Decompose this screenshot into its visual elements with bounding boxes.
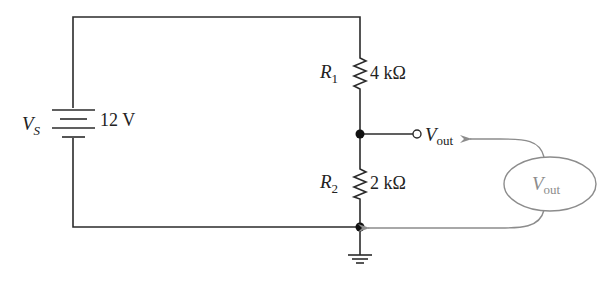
probe-lead-positive xyxy=(470,139,544,157)
r2-label: R2 xyxy=(319,171,338,196)
output-terminal-icon xyxy=(413,130,421,138)
resistor-r1-icon xyxy=(354,55,366,92)
source-label: VS xyxy=(22,113,41,138)
r2-value: 2 kΩ xyxy=(370,173,406,193)
ground-icon xyxy=(348,255,372,263)
r1-value: 4 kΩ xyxy=(370,63,406,83)
resistor-r2-icon xyxy=(354,166,366,200)
top-wire xyxy=(73,17,360,108)
r1-label: R1 xyxy=(319,61,338,86)
output-label: Vout xyxy=(425,124,454,148)
bottom-junction-dot xyxy=(356,223,365,232)
source-value: 12 V xyxy=(100,110,135,130)
probe-lead-negative xyxy=(368,210,544,228)
bottom-wire xyxy=(73,138,360,227)
voltage-divider-circuit: VS 12 V R1 4 kΩ R2 2 kΩ Vout Vout xyxy=(0,0,607,287)
battery-icon xyxy=(52,110,95,137)
middle-junction-dot xyxy=(356,130,365,139)
